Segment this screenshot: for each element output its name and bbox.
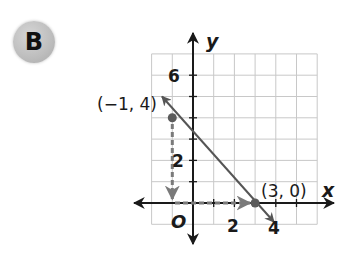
point-3-0: [251, 199, 260, 208]
tick-label-y6: 6: [168, 66, 180, 86]
tick-label-x2: 2: [227, 216, 239, 236]
point-neg1-4: [168, 113, 177, 122]
point-label-neg1-4: (−1, 4): [97, 94, 157, 114]
coordinate-graph: 6 2 2 4 O y x (−1, 4) (3, 0): [0, 0, 343, 254]
y-axis-label: y: [206, 30, 220, 52]
tick-label-x4: 4: [268, 218, 280, 238]
tick-label-y2: 2: [172, 151, 184, 171]
point-label-3-0: (3, 0): [261, 181, 307, 201]
origin-label: O: [171, 211, 186, 232]
x-axis-label: x: [321, 179, 335, 201]
